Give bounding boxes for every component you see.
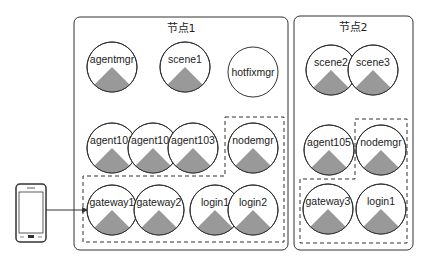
service-nodemgr-node1[interactable]: nodemgr <box>228 123 278 173</box>
service-label: login2 <box>239 196 267 208</box>
service-label: scene1 <box>168 53 202 65</box>
service-login2-node1[interactable]: login2 <box>228 185 278 235</box>
service-gateway3-node2[interactable]: gateway3 <box>303 184 353 234</box>
service-label: scene3 <box>356 56 390 68</box>
service-label: hotfixmgr <box>231 66 275 78</box>
service-agent105-node2[interactable]: agent105 <box>304 125 354 175</box>
mobile-phone-icon[interactable] <box>16 184 46 242</box>
service-scene3-node2[interactable]: scene3 <box>348 45 398 95</box>
service-gateway2-node1[interactable]: gateway2 <box>134 185 184 235</box>
service-label: gateway2 <box>137 196 182 208</box>
service-label: scene2 <box>314 56 348 68</box>
service-label: nodemgr <box>360 136 402 148</box>
service-label: gateway1 <box>90 196 135 208</box>
service-agent103-node1[interactable]: agent103 <box>168 123 218 173</box>
service-label: gateway3 <box>306 195 351 207</box>
node2-title: 节点2 <box>339 21 368 34</box>
node1-title: 节点1 <box>167 22 196 35</box>
service-label: nodemgr <box>232 134 274 146</box>
service-agentmgr-node1[interactable]: agentmgr <box>87 42 137 92</box>
service-gateway1-node1[interactable]: gateway1 <box>87 185 137 235</box>
service-label: login1 <box>367 195 395 207</box>
service-hotfixmgr-node1[interactable]: hotfixmgr <box>228 47 278 97</box>
service-label: agent103 <box>171 134 215 146</box>
service-scene1-node1[interactable]: scene1 <box>160 42 210 92</box>
service-label: agent101 <box>90 134 134 146</box>
service-label: agent105 <box>307 136 351 148</box>
service-label: login1 <box>201 196 229 208</box>
service-nodemgr-node2[interactable]: nodemgr <box>356 125 406 175</box>
architecture-diagram: 节点1 节点2 agentmgrscene1hotfixmgragent101a… <box>0 0 425 261</box>
service-label: agentmgr <box>90 53 135 65</box>
service-login1-node2[interactable]: login1 <box>356 184 406 234</box>
